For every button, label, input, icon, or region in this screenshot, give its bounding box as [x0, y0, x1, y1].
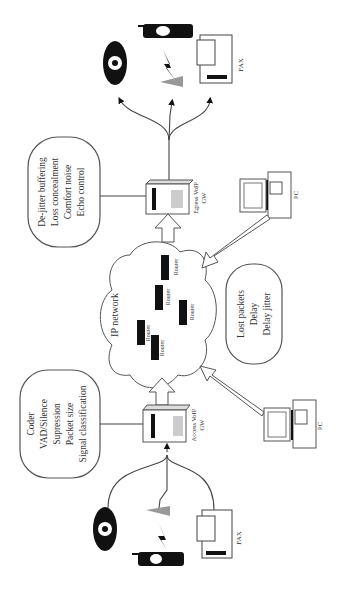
egress-feature: Comfort noise [63, 165, 73, 220]
access-fax-label: FAX [235, 531, 243, 544]
impairment: Delay [249, 302, 259, 325]
egress-feature: Echo control [76, 167, 86, 216]
access-feature: Packet size [65, 403, 75, 445]
svg-text:Router: Router [189, 304, 195, 320]
egress-fax-label: FAX [237, 58, 245, 71]
svg-text:Router: Router [145, 325, 151, 341]
voip-diagram: FAX De-jitter buffering Loss concealment… [0, 0, 338, 594]
svg-text:Router: Router [173, 259, 179, 275]
svg-text:GW: GW [200, 192, 207, 204]
access-feature: VAD/Silence [39, 399, 49, 449]
access-gateway-icon [143, 405, 190, 442]
ip-network-label: IP network [109, 293, 120, 337]
svg-text:Router: Router [165, 289, 171, 305]
svg-text:Router: Router [159, 340, 165, 356]
egress-gw-label: Egress VoIP GW [192, 182, 207, 214]
svg-text:GW: GW [198, 419, 205, 431]
access-feature: Supression [52, 403, 62, 445]
access-mobile-phone-icon [132, 552, 184, 566]
egress-feature: Loss concealment [50, 157, 60, 226]
access-feature: Signal classification [78, 385, 88, 462]
pc-to-cloud-arrow-bottom [200, 366, 264, 416]
access-wireless-icon [146, 506, 170, 550]
impairment: Lost packets [236, 290, 246, 338]
egress-feature: De-jitter buffering [37, 157, 47, 227]
pc-to-cloud-arrow-top [202, 215, 270, 268]
svg-text:Egress VoIP: Egress VoIP [192, 182, 199, 214]
access-pc-icon [264, 400, 316, 448]
egress-mobile-phone-icon [138, 24, 193, 38]
access-fax-icon [197, 510, 232, 558]
egress-telephone-icon [103, 41, 127, 85]
egress-pc-label: PC [292, 191, 299, 199]
access-gw-label: Access VoIP GW [190, 408, 205, 441]
svg-text:Access VoIP: Access VoIP [190, 408, 197, 441]
impairment: Delay jitter [262, 292, 272, 336]
access-branches [108, 446, 214, 510]
access-feature: Coder [26, 412, 36, 436]
egress-wireless-icon [160, 50, 183, 87]
access-pc-label: PC [316, 422, 323, 430]
egress-gateway-icon [146, 180, 193, 214]
egress-pc-icon [240, 172, 291, 218]
cloud-to-egress-arrow [155, 214, 181, 242]
access-telephone-icon [93, 507, 117, 551]
egress-fax-icon [197, 35, 232, 83]
